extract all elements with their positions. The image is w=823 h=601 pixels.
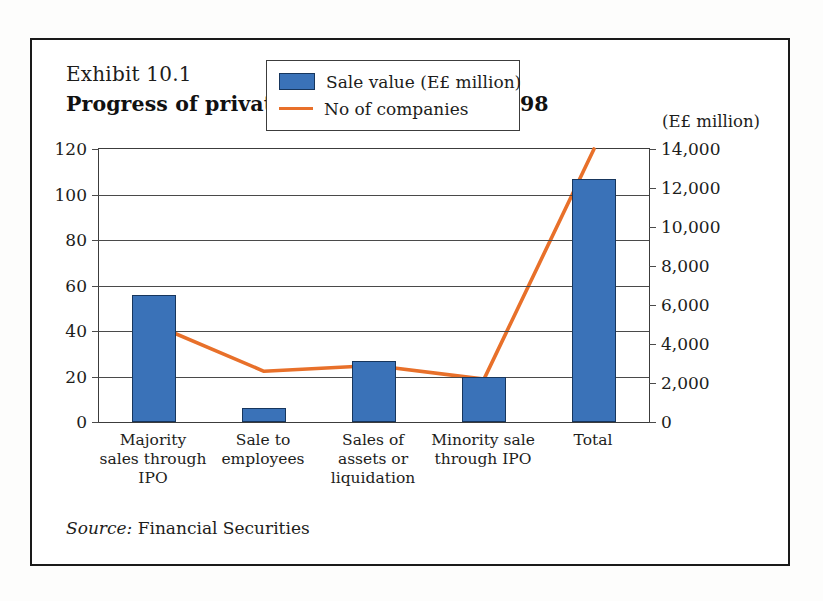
plot-area: 02040608010012002,0004,0006,0008,00010,0…: [98, 148, 650, 423]
left-axis-tick: [92, 377, 99, 378]
bar: [462, 377, 506, 423]
left-axis-tick-label: 60: [65, 276, 87, 296]
right-axis-tick-label: 12,000: [661, 178, 720, 198]
right-axis-tick-label: 0: [661, 412, 672, 432]
legend-line-swatch-icon: [279, 107, 313, 110]
category-label-line: Majority: [99, 431, 206, 450]
right-axis-tick: [649, 422, 656, 423]
right-axis-tick: [649, 344, 656, 345]
right-axis-tick: [649, 383, 656, 384]
left-axis-tick-label: 100: [55, 185, 87, 205]
legend-item-no-of-companies: No of companies: [279, 95, 507, 122]
left-axis-tick-label: 120: [55, 139, 87, 159]
right-axis-tick: [649, 305, 656, 306]
left-axis-tick: [92, 331, 99, 332]
source-note: Source: Financial Securities: [66, 518, 310, 538]
category-label: Majoritysales throughIPO: [99, 431, 206, 488]
category-label-line: liquidation: [331, 469, 415, 488]
left-axis-tick-label: 0: [76, 412, 87, 432]
right-axis-tick-label: 2,000: [661, 373, 710, 393]
category-label: Total: [574, 431, 613, 450]
gridline: [99, 195, 649, 196]
right-axis-tick: [649, 149, 656, 150]
source-text: Financial Securities: [138, 518, 310, 538]
right-axis-tick-label: 14,000: [661, 139, 720, 159]
chart-legend: Sale value (E£ million) No of companies: [266, 60, 520, 131]
bar: [572, 179, 616, 422]
exhibit-page: Exhibit 10.1 Progress of privatisation, …: [0, 0, 823, 601]
left-axis-tick: [92, 422, 99, 423]
left-axis-tick: [92, 149, 99, 150]
right-axis-tick: [649, 188, 656, 189]
category-label-line: Minority sale: [431, 431, 535, 450]
category-label: Sales ofassets orliquidation: [331, 431, 415, 488]
legend-label-no-of-companies: No of companies: [324, 99, 469, 119]
gridline: [99, 286, 649, 287]
category-label-line: Sales of: [331, 431, 415, 450]
left-axis-tick: [92, 240, 99, 241]
category-label-line: through IPO: [431, 450, 535, 469]
left-axis-tick-label: 40: [65, 321, 87, 341]
left-axis-tick-label: 80: [65, 230, 87, 250]
category-label: Sale toemployees: [221, 431, 304, 469]
right-axis-tick-label: 4,000: [661, 334, 710, 354]
gridline: [99, 331, 649, 332]
category-label: Minority salethrough IPO: [431, 431, 535, 469]
gridline: [99, 240, 649, 241]
exhibit-number: Exhibit 10.1: [66, 62, 192, 86]
bar: [242, 408, 286, 422]
line-series: [154, 149, 594, 379]
source-prefix: Source:: [66, 518, 132, 538]
right-axis-tick-label: 8,000: [661, 256, 710, 276]
legend-item-sale-value: Sale value (E£ million): [279, 68, 507, 95]
left-axis-tick-label: 20: [65, 367, 87, 387]
category-label-line: IPO: [99, 469, 206, 488]
exhibit-frame: Exhibit 10.1 Progress of privatisation, …: [30, 38, 790, 566]
right-axis-tick-label: 10,000: [661, 217, 720, 237]
bar: [352, 361, 396, 422]
category-label-line: employees: [221, 450, 304, 469]
left-axis-tick: [92, 286, 99, 287]
category-label-line: sales through: [99, 450, 206, 469]
right-axis-tick: [649, 227, 656, 228]
category-label-line: assets or: [331, 450, 415, 469]
category-label-line: Total: [574, 431, 613, 450]
legend-bar-swatch-icon: [279, 73, 315, 90]
category-label-line: Sale to: [221, 431, 304, 450]
unit-label: (E£ million): [662, 112, 760, 131]
bar: [132, 295, 176, 422]
left-axis-tick: [92, 195, 99, 196]
right-axis-tick: [649, 266, 656, 267]
right-axis-tick-label: 6,000: [661, 295, 710, 315]
legend-label-sale-value: Sale value (E£ million): [326, 72, 521, 92]
